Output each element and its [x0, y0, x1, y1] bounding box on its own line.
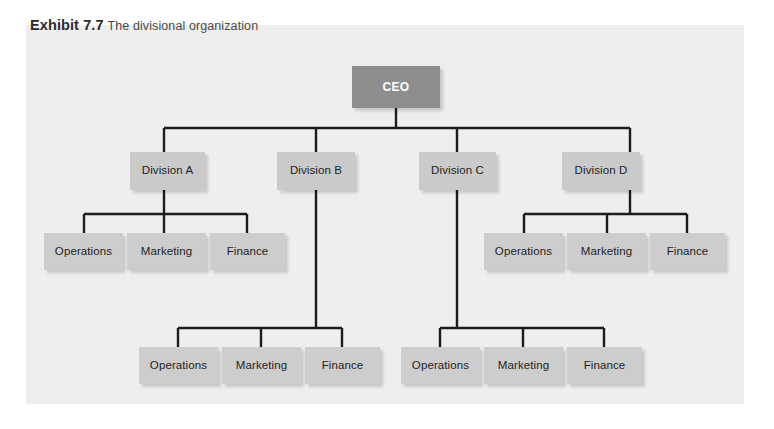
node-label: Operations — [412, 360, 469, 372]
node-division-a-operations[interactable]: Operations — [44, 233, 123, 270]
node-label: CEO — [382, 81, 409, 93]
node-division-a-marketing[interactable]: Marketing — [127, 233, 206, 270]
node-label: Marketing — [581, 246, 632, 258]
node-division-b-operations[interactable]: Operations — [139, 347, 218, 384]
node-division-d-marketing[interactable]: Marketing — [567, 233, 646, 270]
node-label: Division A — [142, 165, 194, 177]
node-label: Operations — [55, 246, 112, 258]
node-division-b[interactable]: Division B — [277, 152, 355, 190]
node-label: Finance — [227, 246, 269, 258]
node-label: Operations — [150, 360, 207, 372]
node-division-c-operations[interactable]: Operations — [401, 347, 480, 384]
node-division-a-finance[interactable]: Finance — [210, 233, 285, 270]
node-label: Operations — [495, 246, 552, 258]
node-division-d[interactable]: Division D — [562, 152, 640, 190]
node-label: Marketing — [236, 360, 287, 372]
connector-lines — [0, 0, 774, 429]
node-label: Division D — [575, 165, 628, 177]
diagram-root: Exhibit 7.7 The divisional organization — [0, 0, 774, 429]
node-label: Finance — [584, 360, 626, 372]
node-label: Finance — [322, 360, 364, 372]
node-label: Finance — [667, 246, 709, 258]
node-division-c-marketing[interactable]: Marketing — [484, 347, 563, 384]
node-label: Marketing — [141, 246, 192, 258]
node-division-d-finance[interactable]: Finance — [650, 233, 725, 270]
node-division-a[interactable]: Division A — [130, 152, 205, 190]
node-division-c-finance[interactable]: Finance — [567, 347, 642, 384]
node-label: Marketing — [498, 360, 549, 372]
node-division-b-marketing[interactable]: Marketing — [222, 347, 301, 384]
node-ceo[interactable]: CEO — [352, 66, 440, 108]
node-division-c[interactable]: Division C — [419, 152, 496, 190]
node-label: Division C — [431, 165, 484, 177]
node-division-d-operations[interactable]: Operations — [484, 233, 563, 270]
node-division-b-finance[interactable]: Finance — [305, 347, 380, 384]
node-label: Division B — [290, 165, 342, 177]
